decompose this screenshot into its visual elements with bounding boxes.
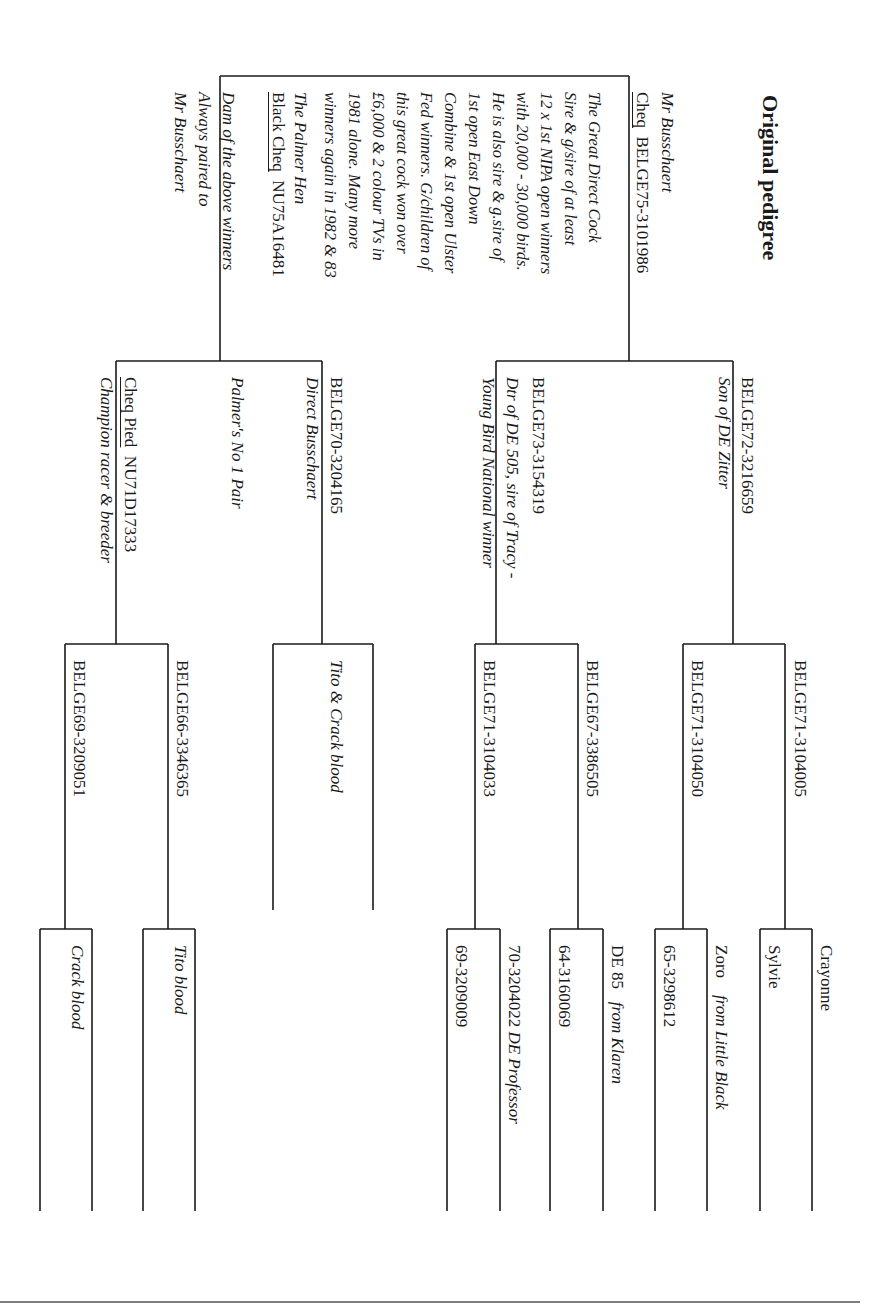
subject-dam-notes: Dam of the above winners Always paired t…: [168, 92, 240, 270]
sire-note-line: Combine & 1st open Ulster: [438, 92, 462, 278]
dam-note-line: Always paired to: [192, 92, 216, 270]
g2-dam-sire-note: Direct Busschaert: [300, 377, 324, 500]
subject-sire-ring-number: BELGE75-3101986: [633, 136, 652, 273]
sire-note-line: Fed winners. G/children of: [414, 92, 438, 278]
g2-sire-sire-ring: BELGE72-3216659: [735, 377, 759, 514]
subject-dam-ring-number: NU75A16481: [269, 180, 288, 276]
g3-ring: BELGE71-3104033: [477, 660, 501, 797]
subject-sire-notes: The Great Direct Cock Sire & g/sire of a…: [318, 92, 606, 278]
g4-name: Crayonne: [814, 945, 838, 1011]
g2-note-line: Dtr of DE 505, sire of Tracy -: [500, 377, 524, 578]
g3-ring: BELGE69-3209051: [67, 660, 91, 797]
g3-ring: BELGE66-3346365: [170, 660, 194, 797]
g4-ring: 70-3204022: [505, 945, 524, 1027]
g4-ring: 69-3209009: [449, 945, 473, 1027]
sire-note-line: 1981 alone. Many more: [342, 92, 366, 278]
g4-name: Zoro: [712, 945, 731, 978]
sire-note-line: this great cock won over: [390, 92, 414, 278]
g2-pair-note: Palmer's No 1 Pair: [225, 377, 249, 509]
g2-dam-dam-note: Champion racer & breeder: [94, 377, 118, 563]
g4-note: from Klaren: [608, 1002, 627, 1084]
sire-note-line: with 20,000 - 30,000 birds.: [510, 92, 534, 278]
sire-note-line: 1st open East Down: [462, 92, 486, 278]
subject-sire-ring: Cheq BELGE75-3101986: [630, 92, 654, 273]
g4-note: Crack blood: [65, 945, 89, 1030]
g4-ring-with-note: 70-3204022 DE Professor: [502, 945, 526, 1124]
g2-dam-dam-ring-number: NU71D17333: [121, 456, 140, 552]
g4-note: from Little Black: [712, 995, 731, 1110]
g4-ring: 65-3298612: [657, 945, 681, 1027]
g3-ring: BELGE71-3104005: [788, 660, 812, 797]
dam-note-line: Dam of the above winners: [216, 92, 240, 270]
sire-note-line: £6,000 & 2 colour TVs in: [366, 92, 390, 278]
g4-ring: 64-3160069: [552, 945, 576, 1027]
subject-breeder-line: Mr Busschaert: [655, 92, 679, 193]
g3-note: Tito & Crack blood: [324, 660, 348, 793]
sire-note-line: The Great Direct Cock: [582, 92, 606, 278]
g2-note-line: Young Bird National winner: [476, 377, 500, 578]
page-title: Original pedigree: [757, 95, 783, 260]
g4-name: DE 85: [608, 945, 627, 989]
subject-dam-name: The Palmer Hen: [288, 92, 312, 204]
subject-dam-ring: Black Cheq NU75A16481: [266, 92, 290, 277]
sire-note-line: winners again in 1982 & 83: [318, 92, 342, 278]
subject-sire-colour: Cheq: [633, 92, 652, 128]
sire-note-line: He is also sire & g.sire of: [486, 92, 510, 278]
dam-note-line: Mr Busschaert: [168, 92, 192, 270]
g2-sire-dam-ring: BELGE73-3154319: [526, 377, 550, 514]
g2-dam-dam-ring: Cheq Pied NU71D17333: [118, 377, 142, 552]
g4-name-with-note: DE 85 from Klaren: [605, 945, 629, 1084]
g4-name-with-note: Zoro from Little Black: [709, 945, 733, 1110]
g4-note: DE Professor: [505, 1031, 524, 1123]
g4-note: Tito blood: [168, 945, 192, 1014]
subject-dam-colour: Black Cheq: [269, 92, 288, 172]
g3-ring: BELGE67-3386505: [580, 660, 604, 797]
g2-sire-dam-notes: Dtr of DE 505, sire of Tracy - Young Bir…: [476, 377, 524, 578]
g2-dam-dam-colour: Cheq Pied: [121, 377, 140, 447]
sire-note-line: 12 x 1st NIPA open winners: [534, 92, 558, 278]
g4-name: Sylvie: [762, 945, 786, 988]
g2-sire-sire-note: Son of DE Zitter: [712, 377, 736, 489]
sire-note-line: Sire & g/sire of at least: [558, 92, 582, 278]
g3-ring: BELGE71-3104050: [685, 660, 709, 797]
g2-dam-sire-ring: BELGE70-3204165: [324, 377, 348, 514]
